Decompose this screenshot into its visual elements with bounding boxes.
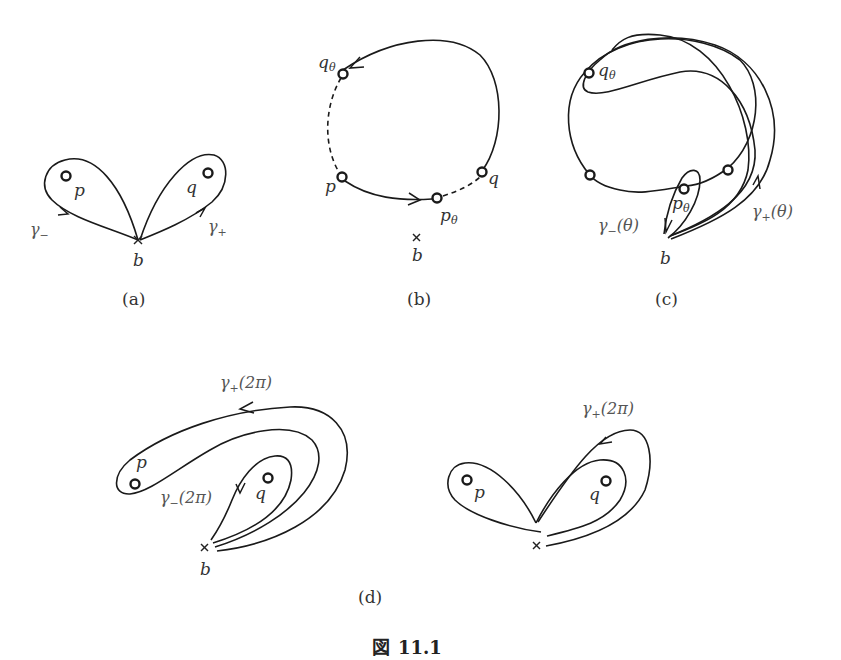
arrow-gamma-plus-icon — [196, 208, 205, 217]
point-p — [338, 173, 347, 182]
label-p: p — [74, 180, 85, 200]
label-gamma-minus: γ− — [30, 220, 49, 242]
point-q — [204, 169, 213, 178]
panel-c: qθ pθ γ−(θ) γ+(θ) b (c) — [568, 34, 792, 309]
base-point-cross-icon — [533, 542, 540, 549]
label-p-theta: pθ — [440, 205, 458, 227]
loop-p — [448, 463, 541, 532]
panel-b: qθ p pθ q b (b) — [318, 40, 499, 309]
panel-d-right: γ+(2π) p q — [448, 399, 650, 549]
base-point-cross-icon — [413, 234, 420, 241]
loop-gamma-minus-2pi — [211, 456, 292, 543]
arrow-gamma-minus-2pi-icon — [236, 483, 245, 493]
label-q-theta: qθ — [318, 52, 336, 74]
caption-c: (c) — [655, 289, 678, 309]
figure-caption: 図11.1 — [372, 637, 442, 658]
label-gamma-plus-2pi: γ+(2π) — [582, 399, 634, 421]
label-gamma-plus-2pi: γ+(2π) — [220, 373, 272, 395]
arc-p-to-ptheta — [345, 181, 432, 200]
label-p: p — [136, 452, 147, 472]
label-b: b — [412, 245, 423, 265]
point-q — [478, 168, 487, 177]
label-gamma-minus-2pi: γ−(2π) — [160, 488, 212, 510]
point-p — [62, 172, 71, 181]
label-q-theta: qθ — [598, 60, 616, 82]
loop-gamma-minus — [45, 159, 138, 240]
caption-d: (d) — [358, 587, 382, 607]
panel-d-left: γ+(2π) p q γ−(2π) b — [117, 373, 348, 579]
label-q: q — [186, 177, 197, 197]
label-q: q — [589, 484, 600, 504]
point-p — [463, 476, 472, 485]
point-q — [602, 477, 611, 486]
point-p-theta — [433, 194, 442, 203]
label-gamma-minus-theta: γ−(θ) — [598, 216, 639, 238]
label-gamma-plus-theta: γ+(θ) — [752, 202, 793, 224]
caption-b: (b) — [407, 289, 431, 309]
dashed-ptheta-to-q — [443, 177, 480, 196]
label-p-theta: pθ — [672, 193, 690, 215]
point-p — [586, 171, 595, 180]
point-q-theta — [585, 69, 594, 78]
point-p — [131, 480, 140, 489]
panel-a: p q b γ− γ+ (a) — [30, 155, 227, 309]
label-p: p — [325, 176, 336, 196]
arc-q-to-qtheta — [343, 40, 499, 171]
loop-gamma-plus-2pi-outer — [117, 407, 348, 551]
point-q-theta — [339, 70, 348, 79]
label-b: b — [660, 248, 671, 268]
label-b: b — [133, 250, 144, 270]
label-b: b — [200, 559, 211, 579]
figure-canvas: p q b γ− γ+ (a) qθ p pθ q b (b) — [0, 0, 841, 660]
point-q — [724, 166, 733, 175]
caption-a: (a) — [122, 289, 145, 309]
dashed-qtheta-to-p — [328, 78, 341, 174]
label-q: q — [255, 483, 266, 503]
label-q: q — [488, 168, 499, 188]
label-gamma-plus: γ+ — [208, 217, 227, 239]
base-point-cross-icon — [201, 544, 208, 551]
point-q — [264, 474, 273, 483]
label-p: p — [474, 482, 485, 502]
